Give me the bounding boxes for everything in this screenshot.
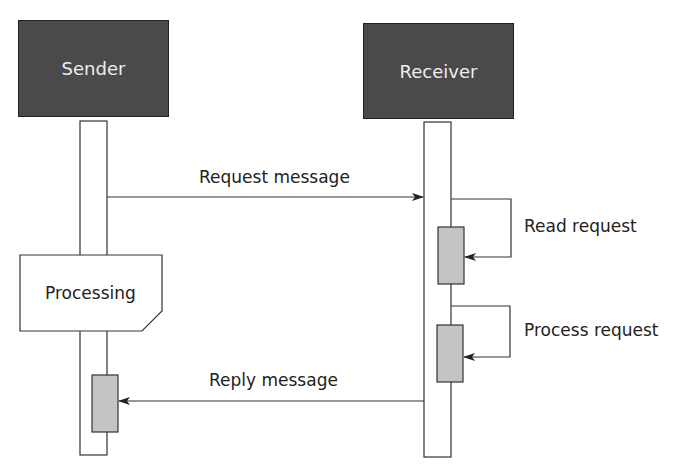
request-message-label: Request message [199, 167, 350, 187]
receiver-lifeline [424, 122, 451, 457]
sender-actor: Sender [18, 20, 169, 117]
receiver-activation-read [438, 227, 464, 284]
sender-activation-reply [92, 375, 118, 432]
receiver-actor: Receiver [363, 23, 514, 119]
processing-label: Processing [45, 283, 136, 303]
process-request-label: Process request [524, 320, 659, 340]
sender-label: Sender [62, 58, 126, 79]
reply-message-label: Reply message [209, 370, 338, 390]
receiver-activation-process [437, 325, 463, 382]
receiver-label: Receiver [400, 61, 478, 82]
read-request-label: Read request [524, 216, 637, 236]
